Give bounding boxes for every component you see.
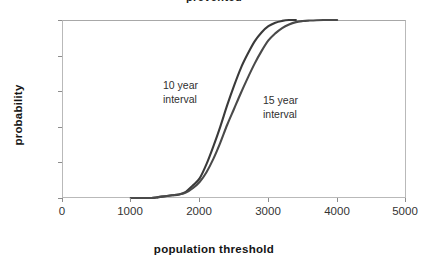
x-tick-mark xyxy=(337,198,338,202)
x-tick-mark xyxy=(199,198,200,202)
plot-area xyxy=(62,20,406,198)
y-tick-mark xyxy=(58,56,62,57)
chart-title: prevented xyxy=(0,0,428,3)
annotation-line-1: 15 year xyxy=(263,93,298,107)
y-axis-title: probability xyxy=(12,45,24,185)
annotation-line-1: 10 year xyxy=(163,78,198,92)
x-tick-label: 3000 xyxy=(255,205,281,217)
y-tick-mark xyxy=(58,127,62,128)
series-paths xyxy=(131,20,337,198)
x-tick-label: 2000 xyxy=(186,205,212,217)
x-tick-mark xyxy=(405,198,406,202)
y-tick-mark xyxy=(58,91,62,92)
y-tick-mark xyxy=(58,162,62,163)
series-line-15-year-interval xyxy=(131,20,337,198)
annotation-line-2: interval xyxy=(163,92,198,106)
annotation-15-year-interval: 15 year interval xyxy=(263,93,298,121)
x-tick-label: 5000 xyxy=(392,205,418,217)
x-tick-mark xyxy=(268,198,269,202)
annotation-line-2: interval xyxy=(263,107,298,121)
y-tick-mark xyxy=(58,198,62,199)
x-tick-label: 1000 xyxy=(117,205,143,217)
x-tick-label: 0 xyxy=(59,205,65,217)
annotation-10-year-interval: 10 year interval xyxy=(163,78,198,106)
x-axis-title: population threshold xyxy=(0,243,428,255)
y-tick-mark xyxy=(58,20,62,21)
x-tick-mark xyxy=(130,198,131,202)
x-tick-label: 4000 xyxy=(324,205,350,217)
x-tick-mark xyxy=(62,198,63,202)
